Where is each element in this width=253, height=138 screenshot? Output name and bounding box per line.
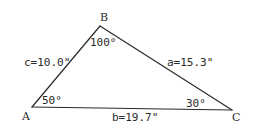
vertex-label-b: B	[100, 11, 108, 24]
angle-label-c: 30°	[186, 97, 206, 110]
vertex-label-a: A	[21, 110, 31, 123]
side-label-b: b=19.7"	[112, 111, 158, 124]
angle-label-b: 100°	[90, 36, 117, 49]
angle-label-a: 50°	[42, 94, 62, 107]
side-label-c: c=10.0"	[24, 56, 70, 69]
triangle-diagram: B A C 100° 50° 30° c=10.0" a=15.3" b=19.…	[0, 0, 253, 138]
vertex-label-c: C	[232, 111, 240, 124]
side-label-a: a=15.3"	[167, 56, 213, 69]
